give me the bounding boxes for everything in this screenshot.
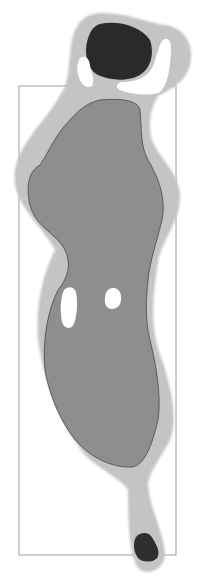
golf-hole-diagram [0, 0, 199, 585]
bunker-fairway-left [61, 287, 77, 328]
bunker-fairway-right [105, 288, 121, 309]
